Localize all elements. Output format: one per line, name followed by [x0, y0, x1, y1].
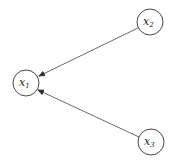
edge-x3-to-x1 — [38, 90, 139, 137]
node-x1[interactable]: x1 — [13, 70, 39, 96]
node-x2[interactable]: x2 — [137, 9, 163, 35]
node-x3[interactable]: x3 — [138, 129, 164, 155]
graph-canvas: x1 x2 x3 — [0, 0, 177, 165]
graph-svg: x1 x2 x3 — [0, 0, 177, 165]
edge-x2-to-x1 — [39, 28, 138, 76]
